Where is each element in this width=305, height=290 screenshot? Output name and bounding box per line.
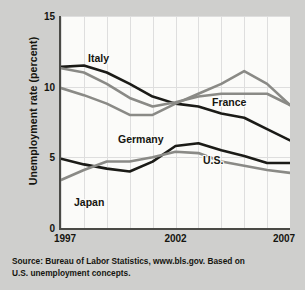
- y-tick-10: 10: [44, 81, 55, 92]
- x-tick-2007: 2007: [273, 233, 295, 244]
- series-label-japan: Japan: [74, 196, 104, 208]
- figure: Unemployment rate (percent) Italy German…: [0, 0, 305, 290]
- series-label-germany: Germany: [118, 133, 164, 145]
- series-line-japan: [61, 152, 290, 180]
- plot-area: Italy Germany France U.S. Japan 15 10 5 …: [59, 16, 290, 230]
- chart-page: Unemployment rate (percent) Italy German…: [0, 0, 305, 290]
- x-tick-2002: 2002: [164, 233, 186, 244]
- y-tick-15: 15: [44, 11, 55, 22]
- x-tick-1997: 1997: [54, 233, 76, 244]
- y-axis-title: Unemployment rate (percent): [27, 16, 39, 206]
- series-label-us: U.S.: [203, 154, 223, 166]
- series-label-italy: Italy: [88, 52, 109, 64]
- y-tick-5: 5: [49, 152, 55, 163]
- series-label-france: France: [212, 96, 246, 108]
- source-note: Source: Bureau of Labor Statistics, www.…: [12, 256, 297, 279]
- y-tick-0: 0: [49, 223, 55, 234]
- source-line-2: U.S. unemployment concepts.: [12, 268, 297, 280]
- source-line-1: Source: Bureau of Labor Statistics, www.…: [12, 256, 297, 268]
- plot-inner: Italy Germany France U.S. Japan: [61, 16, 290, 228]
